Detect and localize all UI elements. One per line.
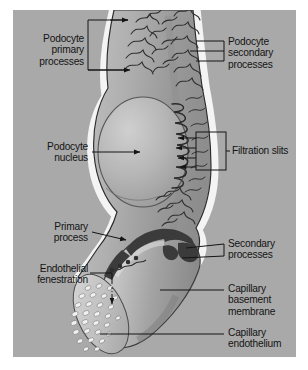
label-podocyte-secondary-processes: Podocyte secondary processes <box>228 36 304 70</box>
label-endothelial-fenestration: Endothelial fenestration <box>12 263 88 286</box>
label-capillary-basement-membrane: Capillary basement membrane <box>228 283 304 317</box>
label-capillary-endothelium: Capillary endothelium <box>228 327 304 350</box>
label-secondary-processes: Secondary processes <box>228 238 304 261</box>
label-podocyte-nucleus: Podocyte nucleus <box>26 141 88 164</box>
label-podocyte-primary-processes: Podocyte primary processes <box>8 33 84 67</box>
podocyte-diagram-figure: Podocyte primary processes Podocyte seco… <box>0 0 308 370</box>
label-primary-process: Primary process <box>26 221 88 244</box>
label-filtration-slits: Filtration slits <box>232 145 306 156</box>
